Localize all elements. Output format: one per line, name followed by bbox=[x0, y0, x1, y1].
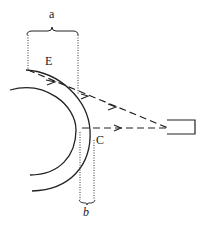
detector bbox=[167, 120, 195, 134]
brace-a bbox=[27, 27, 78, 35]
label-a: a bbox=[49, 7, 55, 21]
label-E: E bbox=[45, 54, 52, 68]
inner-shell-arc bbox=[10, 88, 76, 175]
label-C: C bbox=[96, 133, 104, 147]
arrow-upper-2 bbox=[81, 94, 88, 99]
diagram: a E C b bbox=[0, 0, 206, 227]
upper-dashed-ray bbox=[28, 70, 168, 128]
label-b: b bbox=[83, 205, 89, 219]
